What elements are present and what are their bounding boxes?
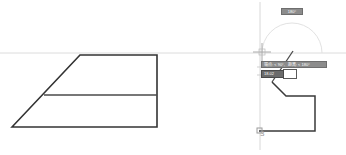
crosshair-icon [253,43,271,61]
rubber-band-line [272,63,285,82]
polyline-in-progress[interactable] [259,82,315,131]
cad-vector-layer [0,0,346,155]
cad-drawing-canvas[interactable]: 180° 端点: < 90°, 距离: < 180° 18.02 3 [0,0,346,155]
trapezoid-outline[interactable] [12,55,157,127]
angle-snap-arc [262,23,322,53]
